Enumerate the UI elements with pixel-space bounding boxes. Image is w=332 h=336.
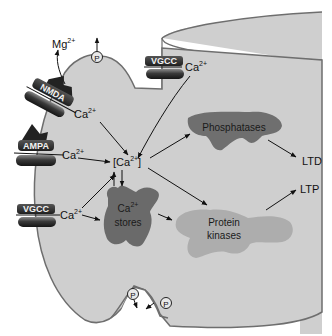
phospho-marker-bottom-right: P xyxy=(161,298,172,309)
phospho-marker-bottom-left: P xyxy=(128,289,139,300)
vgcc-left-label: VGCC xyxy=(23,204,50,214)
vgcc-top-label: VGCC xyxy=(151,56,178,66)
ltd-label: LTD xyxy=(302,155,322,167)
vgcc-left-channel: VGCC xyxy=(16,204,60,227)
svg-text:P: P xyxy=(163,300,168,309)
spine-cell-body xyxy=(34,48,322,327)
ampa-label: AMPA xyxy=(23,141,49,151)
phosphatases-label: Phosphatases xyxy=(202,122,265,133)
vgcc-top-channel: VGCC xyxy=(144,56,184,79)
protein-kinases-label-line1: Protein xyxy=(208,217,240,228)
calcium-signaling-diagram: Phosphatases Protein kinases Ca2+ stores… xyxy=(0,0,332,336)
ca-stores-label-line2: stores xyxy=(114,217,141,228)
ltp-label: LTP xyxy=(300,183,319,195)
mg-ion-label: Mg2+ xyxy=(52,37,75,50)
svg-text:P: P xyxy=(130,291,135,300)
svg-text:P: P xyxy=(94,54,99,63)
protein-kinases-label-line2: kinases xyxy=(207,230,241,241)
phospho-marker-top: P xyxy=(92,52,103,63)
